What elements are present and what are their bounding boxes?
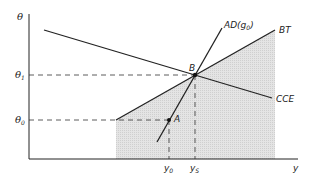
bt-label: BT xyxy=(279,25,292,35)
y-0-label: y0 xyxy=(163,163,173,174)
shaded-region xyxy=(116,30,275,159)
theta-0-label: θ0 xyxy=(15,114,25,126)
ad-label: AD(g0) xyxy=(223,20,254,31)
x-axis-label: y xyxy=(292,163,299,173)
point-b-label: B xyxy=(189,63,195,73)
theta-1-label: θ1 xyxy=(15,69,25,81)
diagram-canvas: θ y θ1 θ0 y0 yS AD(g0) BT CCE B A xyxy=(0,0,317,178)
cce-label: CCE xyxy=(276,94,295,104)
y-axis-label: θ xyxy=(17,11,23,22)
y-s-label: yS xyxy=(189,163,199,174)
point-a xyxy=(167,118,171,122)
point-a-label: A xyxy=(173,114,180,124)
point-b xyxy=(193,73,197,77)
